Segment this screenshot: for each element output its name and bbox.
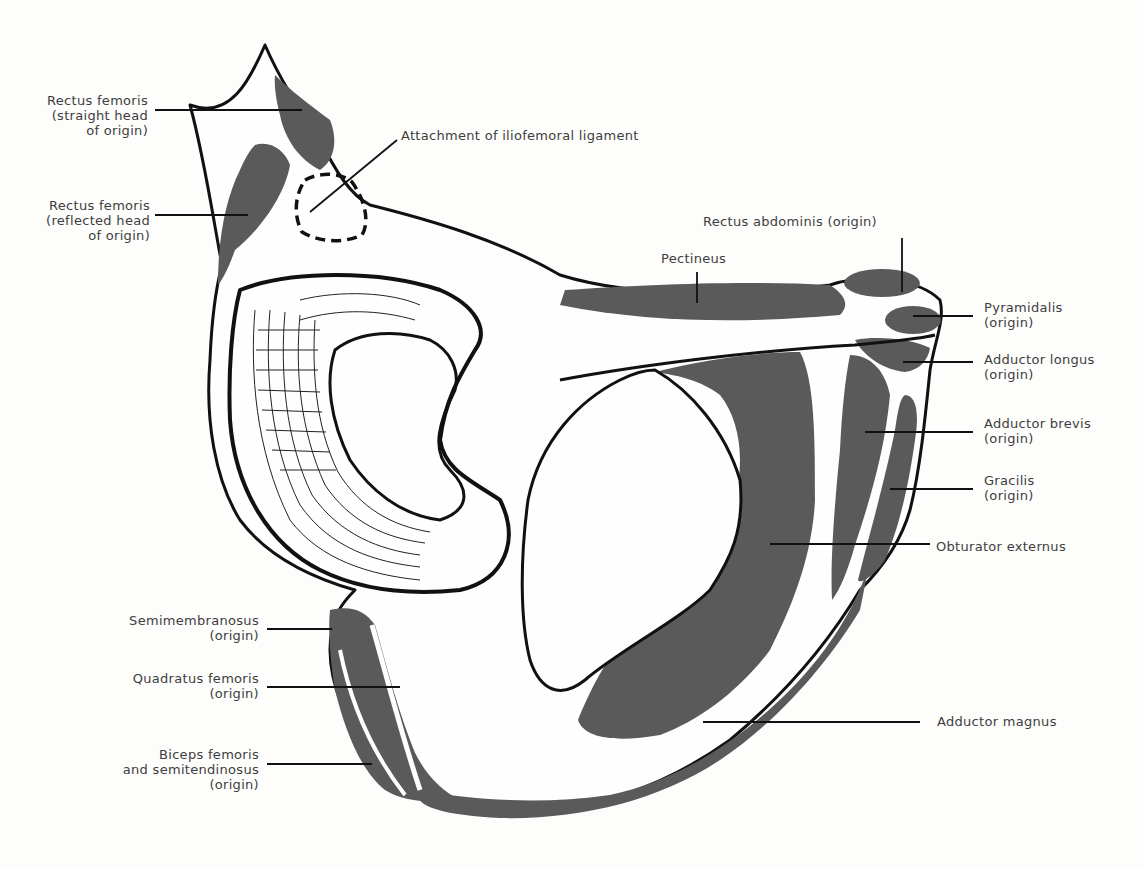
label-biceps-femoris-semitendinosus: Biceps femoris and semitendinosus (origi… <box>90 747 259 792</box>
label-quadratus-femoris: Quadratus femoris (origin) <box>100 671 259 701</box>
label-obturator-externus: Obturator externus <box>936 539 1066 554</box>
label-adductor-brevis: Adductor brevis (origin) <box>984 416 1091 446</box>
label-rectus-femoris-reflected-head: Rectus femoris (reflected head of origin… <box>20 198 150 243</box>
label-rectus-femoris-straight-head: Rectus femoris (straight head of origin) <box>20 93 148 138</box>
label-gracilis: Gracilis (origin) <box>984 473 1035 503</box>
label-rectus-abdominis: Rectus abdominis (origin) <box>703 214 877 229</box>
anatomy-figure: Rectus femoris (straight head of origin)… <box>0 0 1145 869</box>
label-pectineus: Pectineus <box>661 251 726 266</box>
label-iliofemoral-ligament-attachment: Attachment of iliofemoral ligament <box>401 128 639 143</box>
label-semimembranosus: Semimembranosus (origin) <box>100 613 259 643</box>
rectus-abdominis-area <box>844 269 920 297</box>
label-pyramidalis: Pyramidalis (origin) <box>984 300 1063 330</box>
label-adductor-longus: Adductor longus (origin) <box>984 352 1095 382</box>
pyramidalis-area <box>885 306 941 334</box>
label-adductor-magnus: Adductor magnus <box>937 714 1057 729</box>
